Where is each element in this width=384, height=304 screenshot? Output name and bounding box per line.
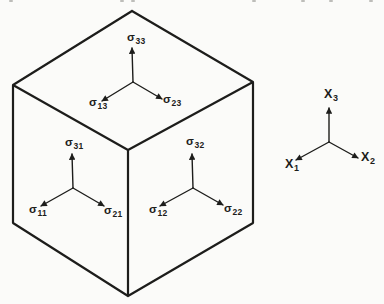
- stress-label-sigma13: σ13: [89, 96, 107, 109]
- stress-label-sigma22: σ22: [224, 202, 242, 215]
- axis-subscript: 3: [333, 93, 338, 103]
- axis-label-x1: X1: [285, 158, 299, 171]
- sigma-symbol: σ: [149, 203, 157, 215]
- sigma-subscript: 32: [195, 140, 205, 150]
- arrow-sigma31: [72, 154, 73, 188]
- axis-label-x2: X2: [361, 151, 375, 164]
- stress-label-sigma23: σ23: [163, 93, 181, 106]
- sigma-subscript: 12: [158, 208, 168, 218]
- arrow-sigma33: [132, 48, 133, 82]
- axis-symbol: X: [285, 157, 294, 171]
- stress-label-sigma32: σ32: [186, 135, 204, 148]
- sigma-symbol: σ: [186, 135, 194, 147]
- sigma-symbol: σ: [65, 136, 73, 148]
- stress-label-sigma12: σ12: [149, 203, 167, 216]
- arrow-axis-x2: [329, 142, 358, 158]
- sigma-subscript: 31: [74, 141, 84, 151]
- sigma-subscript: 21: [113, 209, 123, 219]
- axis-subscript: 2: [370, 156, 375, 166]
- arrow-sigma23: [133, 82, 162, 99]
- sigma-subscript: 13: [98, 101, 108, 111]
- arrow-sigma32: [192, 154, 193, 188]
- stress-label-sigma21: σ21: [104, 204, 122, 217]
- axis-symbol: X: [324, 87, 333, 101]
- sigma-symbol: σ: [104, 204, 112, 216]
- axis-symbol: X: [361, 150, 370, 164]
- axis-subscript: 1: [294, 163, 299, 173]
- arrow-axis-x1: [296, 142, 329, 160]
- sigma-subscript: 11: [38, 208, 47, 218]
- stress-label-sigma31: σ31: [65, 136, 83, 149]
- sigma-symbol: σ: [89, 96, 97, 108]
- stress-cube-diagram: σ33 σ13 σ23 σ31 σ11 σ21 σ32 σ12 σ22 X3 X…: [0, 0, 384, 304]
- sigma-subscript: 23: [172, 98, 182, 108]
- sigma-symbol: σ: [163, 93, 171, 105]
- stress-label-sigma11: σ11: [29, 203, 47, 216]
- sigma-symbol: σ: [29, 203, 37, 215]
- cube-outline: [13, 11, 253, 296]
- diagram-linework: [0, 0, 384, 304]
- sigma-subscript: 22: [233, 207, 243, 217]
- sigma-subscript: 33: [136, 36, 146, 46]
- sigma-symbol: σ: [224, 202, 232, 214]
- arrow-sigma21: [73, 188, 104, 206]
- axis-label-x3: X3: [324, 88, 338, 101]
- sigma-symbol: σ: [127, 31, 135, 43]
- arrow-sigma22: [193, 188, 223, 205]
- stress-label-sigma33: σ33: [127, 31, 145, 44]
